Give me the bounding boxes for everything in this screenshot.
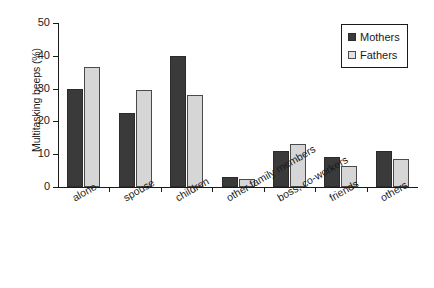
bar-fathers-0 [84,67,100,187]
bar-chart: Multitasking beeps (%) 01020304050 alone… [0,0,434,288]
x-tick-6 [367,187,368,192]
bar-mothers-2 [170,56,186,187]
x-tick-5 [315,187,316,192]
legend-item-mothers: Mothers [348,30,400,44]
y-tick-20: 20 [53,121,58,122]
legend-swatch-fathers-icon [348,51,356,59]
legend-swatch-mothers-icon [348,33,356,41]
y-tick-0: 0 [53,187,58,188]
x-tick-2 [161,187,162,192]
legend-label-mothers: Mothers [360,31,400,43]
y-tick-label: 20 [38,114,50,127]
bar-mothers-6 [376,151,392,187]
y-axis-line [58,23,59,187]
bar-fathers-2 [187,95,203,187]
y-tick-label: 10 [38,147,50,160]
x-tick-1 [109,187,110,192]
legend-item-fathers: Fathers [348,48,400,62]
x-tick-4 [264,187,265,192]
y-tick-label: 50 [38,16,50,29]
legend: Mothers Fathers [341,24,408,68]
y-tick-50: 50 [53,23,58,24]
bar-mothers-1 [119,113,135,187]
y-tick-30: 30 [53,89,58,90]
x-tick-3 [212,187,213,192]
y-tick-label: 0 [44,180,50,193]
legend-label-fathers: Fathers [360,49,397,61]
y-tick-10: 10 [53,154,58,155]
y-tick-label: 30 [38,82,50,95]
bar-mothers-0 [67,89,83,187]
y-tick-40: 40 [53,56,58,57]
y-tick-label: 40 [38,49,50,62]
bar-fathers-1 [136,90,152,187]
